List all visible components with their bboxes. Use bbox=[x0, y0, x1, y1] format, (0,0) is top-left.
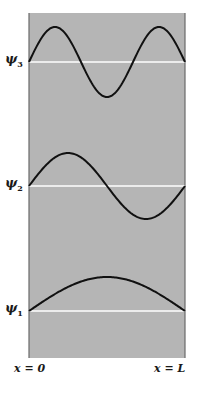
label-psi2: ψ2 bbox=[5, 175, 23, 193]
particle-in-box-wavefunctions bbox=[0, 0, 206, 394]
label-psi3: ψ3 bbox=[5, 51, 23, 69]
x-label-left: x = 0 bbox=[14, 362, 45, 375]
x-label-right: x = L bbox=[154, 362, 185, 375]
label-psi1: ψ1 bbox=[5, 300, 23, 318]
